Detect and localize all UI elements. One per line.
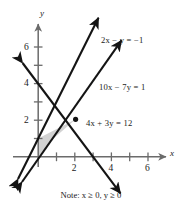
- coordinate-plane-svg: [0, 0, 182, 209]
- y-axis-label: y: [40, 9, 44, 18]
- line-label-2x-minus-y: 2x − y = −1: [101, 36, 144, 45]
- line-label-4x-plus-3y: 4x + 3y = 12: [86, 119, 132, 128]
- y-tick-label-4: 4: [24, 79, 29, 89]
- intersection-point-marker: [73, 117, 78, 122]
- y-tick-label-2: 2: [24, 116, 29, 126]
- line-label-10x-minus-7y: 10x − 7y = 1: [99, 83, 145, 92]
- x-axis-label: x: [170, 149, 174, 158]
- line-10x-minus-7y: [22, 40, 122, 182]
- y-tick-label-6: 6: [24, 43, 29, 53]
- x-tick-label-6: 6: [145, 164, 150, 174]
- constraint-note: Note: x ≥ 0, y ≥ 0: [61, 191, 122, 200]
- x-tick-label-4: 4: [108, 164, 113, 174]
- graph-figure: y x 2 4 6 2 4 6 2x − y = −1 10x − 7y = 1…: [0, 0, 182, 209]
- line-2x-minus-y: [18, 18, 99, 179]
- x-tick-label-2: 2: [72, 164, 77, 174]
